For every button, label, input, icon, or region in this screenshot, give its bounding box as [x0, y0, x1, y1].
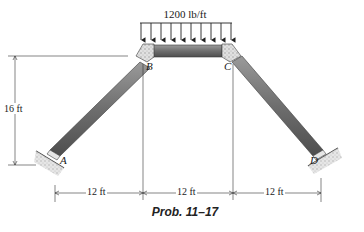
height-dimension: [8, 56, 128, 165]
span-label-2: 12 ft: [176, 186, 197, 197]
frame-diagram: [0, 0, 364, 232]
distributed-load-arrows: [140, 23, 232, 40]
span-label-3: 12 ft: [264, 186, 285, 197]
member-bc: [153, 45, 222, 57]
point-c-label: C: [224, 60, 231, 72]
point-b-label: B: [146, 60, 153, 72]
member-cd: [232, 56, 323, 156]
point-a-label: A: [60, 154, 67, 166]
span-label-1: 12 ft: [86, 186, 107, 197]
span-dimensions: [55, 64, 321, 202]
load-label: 1200 lb/ft: [150, 8, 220, 20]
point-d-label: D: [310, 154, 318, 166]
figure-caption: Prob. 11–17: [115, 205, 255, 219]
height-label: 16 ft: [3, 103, 24, 114]
member-ab: [50, 62, 150, 156]
